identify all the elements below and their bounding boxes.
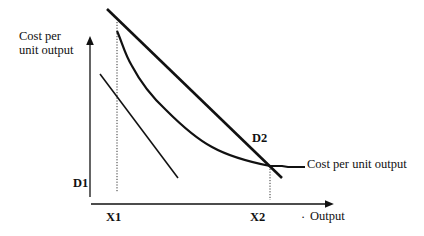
cost-curve — [117, 31, 305, 167]
x2-label: X2 — [250, 210, 265, 224]
y-axis-label-line1: Cost per — [19, 29, 74, 43]
d2-label: D2 — [252, 131, 267, 145]
d1-label: D1 — [73, 176, 88, 190]
curve-label: Cost per unit output — [307, 157, 407, 171]
x-axis-label: Output — [310, 209, 345, 223]
y-axis-label: Cost per unit output — [19, 29, 74, 57]
d2-line — [107, 9, 282, 178]
d1-line — [100, 74, 178, 178]
x-axis-dot: · — [301, 210, 305, 224]
x1-label: X1 — [106, 210, 121, 224]
y-axis-label-line2: unit output — [19, 43, 74, 57]
cost-per-unit-diagram: Cost per unit output D1 D2 Cost per unit… — [0, 0, 424, 236]
